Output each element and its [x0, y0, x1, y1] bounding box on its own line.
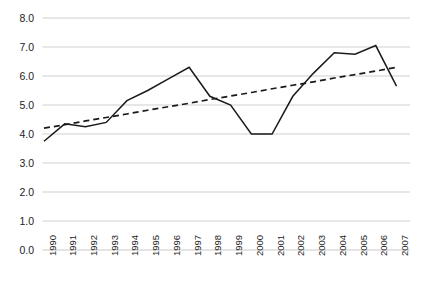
y-axis-tick-label: 0.0: [4, 245, 34, 256]
series-group: [44, 46, 397, 142]
y-axis-tick-label: 1.0: [4, 216, 34, 227]
x-axis-tick-label: 1998: [213, 235, 223, 256]
line-chart: 8.07.06.05.04.03.02.01.00.0 199019911992…: [0, 0, 424, 295]
x-axis-tick-label: 2007: [400, 235, 410, 256]
y-axis-tick-label: 4.0: [4, 129, 34, 140]
y-axis-tick-label: 2.0: [4, 187, 34, 198]
x-axis-tick-label: 1991: [68, 235, 78, 256]
x-axis-tick-label: 1993: [110, 235, 120, 256]
x-axis-tick-label: 2000: [255, 235, 265, 256]
x-axis-tick-label: 1995: [151, 235, 161, 256]
x-axis-tick-label: 2002: [296, 235, 306, 256]
x-axis-tick-label: 2005: [359, 235, 369, 256]
data-line: [44, 46, 397, 142]
y-axis-tick-label: 3.0: [4, 158, 34, 169]
y-axis-tick-label: 8.0: [4, 13, 34, 24]
x-axis-tick-label: 2004: [338, 235, 348, 256]
x-axis-tick-label: 2006: [379, 235, 389, 256]
x-axis-tick-label: 1992: [89, 235, 99, 256]
x-axis-tick-label: 2001: [276, 235, 286, 256]
y-axis-tick-label: 7.0: [4, 42, 34, 53]
x-axis-tick-label: 1994: [130, 235, 140, 256]
x-axis-tick-label: 1999: [234, 235, 244, 256]
y-axis-tick-label: 5.0: [4, 100, 34, 111]
x-axis-tick-label: 2003: [317, 235, 327, 256]
x-axis-tick-label: 1997: [193, 235, 203, 256]
x-axis-tick-label: 1990: [48, 235, 58, 256]
x-axis-tick-label: 1996: [172, 235, 182, 256]
gridline-group: [43, 18, 411, 250]
y-axis-tick-label: 6.0: [4, 71, 34, 82]
